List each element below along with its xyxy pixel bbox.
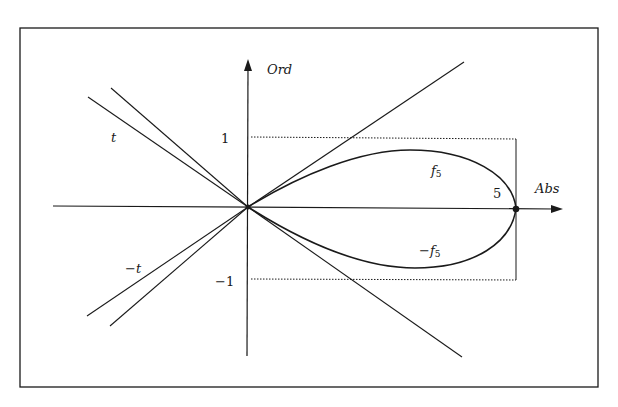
- tangent-line-upper-right: [248, 62, 464, 207]
- curve-label-neg-f5: −f5: [419, 244, 440, 259]
- x-tick-5: 5: [493, 187, 501, 200]
- y-axis: [247, 66, 248, 356]
- y-tick-neg-1: −1: [215, 275, 234, 288]
- tangent-neg-t-left: [87, 207, 248, 316]
- y-axis-label: Ord: [267, 63, 292, 76]
- tangent-label-neg-t: −t: [125, 262, 141, 275]
- y-tick-1: 1: [221, 132, 229, 145]
- y-axis-arrow-icon: [244, 59, 252, 71]
- tangent-line-lower-right: [248, 207, 462, 357]
- origin-point: [246, 205, 251, 210]
- diagram-canvas: [0, 0, 618, 407]
- x-axis-label: Abs: [535, 182, 559, 195]
- tangent-line-upper-left: [111, 88, 248, 207]
- x-axis: [53, 206, 556, 209]
- curve-f5-lower: [248, 207, 516, 268]
- bound-box-top: [251, 137, 516, 139]
- tangent-label-t: t: [111, 131, 116, 144]
- curve-f5-upper: [248, 150, 516, 208]
- tangent-t-left: [88, 97, 248, 207]
- endpoint-x5: [513, 206, 520, 213]
- curve-label-f5: f5: [431, 164, 442, 179]
- x-axis-arrow-icon: [551, 205, 563, 213]
- bound-box-bottom: [251, 279, 516, 280]
